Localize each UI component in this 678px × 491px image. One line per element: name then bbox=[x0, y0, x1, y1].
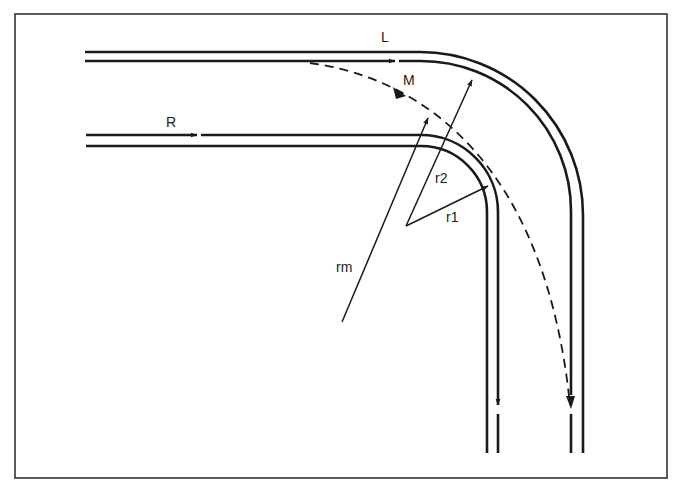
track-l-outer-rail bbox=[85, 52, 583, 453]
path-m-end-arrow-icon bbox=[566, 396, 575, 409]
path-m-dashed bbox=[310, 63, 570, 405]
label-r: R bbox=[166, 114, 176, 130]
label-r2: r2 bbox=[435, 170, 448, 186]
track-l bbox=[85, 52, 583, 453]
radius-rm-line bbox=[342, 118, 428, 322]
label-rm: rm bbox=[336, 259, 352, 275]
track-curve-diagram: L M R r2 r1 rm bbox=[0, 0, 678, 491]
label-m: M bbox=[403, 72, 415, 88]
label-l: L bbox=[381, 29, 389, 45]
diagram-frame bbox=[15, 14, 667, 478]
track-r-inner-rail bbox=[86, 146, 487, 453]
radius-r2-line bbox=[406, 80, 472, 226]
path-m-arrow-icon bbox=[393, 87, 406, 99]
label-r1: r1 bbox=[446, 209, 459, 225]
